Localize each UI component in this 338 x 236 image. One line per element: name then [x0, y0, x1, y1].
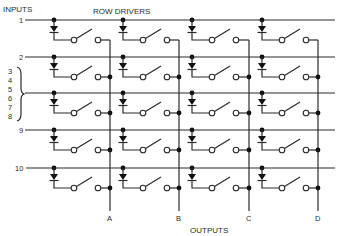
output-junction-dot — [247, 148, 252, 153]
output-label-c: C — [246, 214, 252, 223]
switch-blade — [215, 66, 231, 76]
switch-contact-right — [95, 185, 101, 191]
switch-blade — [77, 177, 93, 187]
output-junction-dot — [177, 186, 182, 191]
switch-contact-right — [164, 185, 170, 191]
input-label-1: 1 — [19, 16, 23, 25]
switch-contact-left — [209, 74, 215, 80]
switch-lead — [262, 142, 279, 150]
switch-lead — [123, 142, 140, 150]
diode-icon — [258, 26, 266, 32]
output-junction-dot — [108, 186, 113, 191]
switch-contact-left — [71, 147, 77, 153]
switch-contact-left — [209, 110, 215, 116]
output-label-b: B — [176, 214, 181, 223]
group-brace — [17, 67, 24, 121]
switch-lead — [262, 69, 279, 77]
input-label-5: 5 — [8, 85, 12, 94]
switch-contact-left — [71, 37, 77, 43]
diode-icon — [188, 26, 196, 32]
switch-contact-right — [233, 185, 239, 191]
output-junction-dot — [108, 111, 113, 116]
switch-blade — [215, 29, 231, 39]
diode-icon — [188, 136, 196, 142]
switch-contact-right — [164, 147, 170, 153]
switch-lead — [123, 32, 140, 40]
diode-icon — [258, 99, 266, 105]
switch-contact-left — [279, 37, 285, 43]
diode-icon — [258, 63, 266, 69]
diode-icon — [50, 136, 58, 142]
switch-lead — [192, 105, 209, 113]
switch-contact-right — [164, 37, 170, 43]
switch-blade — [146, 177, 162, 187]
switch-lead — [123, 69, 140, 77]
switch-contact-right — [303, 37, 309, 43]
switch-blade — [215, 177, 231, 187]
switch-contact-right — [303, 147, 309, 153]
diode-icon — [50, 26, 58, 32]
diode-icon — [119, 174, 127, 180]
diode-icon — [119, 63, 127, 69]
diode-icon — [258, 174, 266, 180]
input-label-2: 2 — [19, 53, 23, 62]
switch-contact-right — [233, 74, 239, 80]
switch-contact-right — [303, 185, 309, 191]
switch-contact-right — [233, 147, 239, 153]
switch-lead — [123, 105, 140, 113]
switch-lead — [54, 32, 71, 40]
switch-contact-left — [140, 74, 146, 80]
output-junction-dot — [247, 186, 252, 191]
diode-icon — [188, 174, 196, 180]
diode-icon — [50, 99, 58, 105]
switch-contact-left — [140, 37, 146, 43]
input-label-6: 6 — [8, 94, 12, 103]
switch-blade — [285, 102, 301, 112]
switch-blade — [146, 66, 162, 76]
switch-contact-right — [303, 74, 309, 80]
switch-blade — [77, 66, 93, 76]
input-label-4: 4 — [8, 76, 12, 85]
diode-icon — [50, 63, 58, 69]
switch-blade — [77, 29, 93, 39]
outputs-title: OUTPUTS — [190, 226, 228, 235]
diode-icon — [50, 174, 58, 180]
switch-contact-left — [209, 37, 215, 43]
switch-lead — [54, 69, 71, 77]
output-label-a: A — [107, 214, 112, 223]
switch-blade — [215, 102, 231, 112]
output-junction-dot — [316, 186, 321, 191]
switch-contact-right — [95, 37, 101, 43]
switch-contact-left — [140, 110, 146, 116]
switch-lead — [192, 69, 209, 77]
output-junction-dot — [177, 75, 182, 80]
switch-blade — [77, 139, 93, 149]
output-junction-dot — [177, 111, 182, 116]
switch-contact-left — [209, 147, 215, 153]
switch-blade — [146, 102, 162, 112]
switch-lead — [54, 180, 71, 188]
switch-contact-right — [164, 74, 170, 80]
output-junction-dot — [108, 75, 113, 80]
switch-lead — [262, 32, 279, 40]
switch-contact-right — [303, 110, 309, 116]
switch-blade — [146, 139, 162, 149]
output-junction-dot — [316, 75, 321, 80]
switch-blade — [285, 66, 301, 76]
inputs-title: INPUTS — [3, 5, 32, 14]
switch-lead — [123, 180, 140, 188]
diode-icon — [119, 99, 127, 105]
input-label-3: 3 — [8, 67, 12, 76]
switch-blade — [285, 139, 301, 149]
switch-contact-left — [279, 110, 285, 116]
switch-contact-right — [95, 74, 101, 80]
switch-contact-left — [71, 185, 77, 191]
switch-lead — [192, 180, 209, 188]
row-drivers-title: ROW DRIVERS — [93, 7, 150, 16]
input-label-9: 9 — [19, 126, 23, 135]
input-label-7: 7 — [8, 103, 12, 112]
output-junction-dot — [247, 111, 252, 116]
output-junction-dot — [316, 148, 321, 153]
diode-icon — [258, 136, 266, 142]
output-label-d: D — [315, 214, 321, 223]
